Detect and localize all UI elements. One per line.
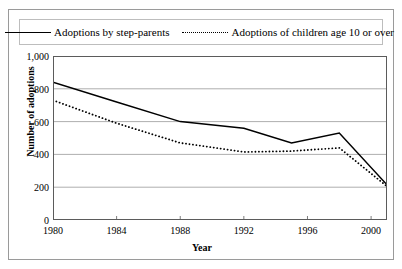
- x-tick-label: 1996: [297, 225, 317, 236]
- y-tick-label: 400: [34, 149, 49, 160]
- legend-label-age-10-or-over: Adoptions of children age 10 or over: [228, 27, 397, 38]
- x-axis-title: Year: [9, 242, 395, 253]
- legend-label-step-parents: Adoptions by step-parents: [51, 27, 172, 38]
- x-tick-label: 1992: [234, 225, 254, 236]
- legend-entry-step-parents: Adoptions by step-parents: [5, 27, 172, 38]
- legend-swatch-dotted-line-icon: [182, 32, 228, 33]
- chart-figure: Adoptions by step-parents Adoptions of c…: [8, 9, 394, 260]
- x-tick-label: 2000: [361, 225, 381, 236]
- y-tick-label: 600: [34, 116, 49, 127]
- plot-area: 02004006008001,000 198019841988199219962…: [53, 56, 387, 220]
- chart-legend: Adoptions by step-parents Adoptions of c…: [19, 19, 383, 45]
- x-tick-label: 1980: [43, 225, 63, 236]
- x-tick-label: 1988: [170, 225, 190, 236]
- y-tick-label: 200: [34, 182, 49, 193]
- legend-entry-age-10-or-over: Adoptions of children age 10 or over: [182, 27, 397, 38]
- y-tick-label: 1,000: [27, 51, 50, 62]
- legend-swatch-solid-line-icon: [5, 32, 51, 33]
- y-tick-label: 800: [34, 83, 49, 94]
- x-tick-label: 1984: [107, 225, 127, 236]
- plot-frame: [53, 56, 387, 220]
- y-tick-label: 0: [44, 215, 49, 226]
